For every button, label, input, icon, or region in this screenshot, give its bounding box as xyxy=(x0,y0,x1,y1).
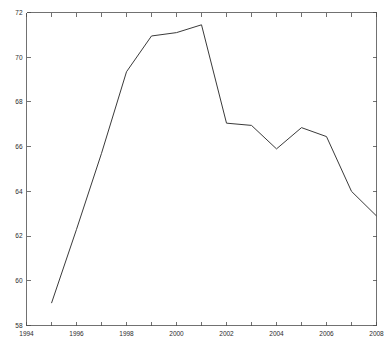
x-tick-label: 2004 xyxy=(269,330,284,337)
x-tick-label: 2008 xyxy=(369,330,384,337)
y-tick-label: 66 xyxy=(15,143,23,150)
y-tick-label: 72 xyxy=(15,9,23,16)
x-tick-label: 1994 xyxy=(19,330,34,337)
chart-figure: 19941996199820002002200420062008 5860626… xyxy=(0,0,390,349)
y-tick-label: 64 xyxy=(15,188,23,195)
y-tick-label: 58 xyxy=(15,322,23,329)
y-tick-label: 68 xyxy=(15,98,23,105)
x-tick-label: 2002 xyxy=(219,330,234,337)
y-tick-label: 60 xyxy=(15,277,23,284)
y-tick-label: 62 xyxy=(15,232,23,239)
x-tick-label: 2006 xyxy=(319,330,334,337)
y-tick-label: 70 xyxy=(15,54,23,61)
plot-background xyxy=(0,0,390,349)
x-tick-label: 1996 xyxy=(69,330,84,337)
x-tick-label: 2000 xyxy=(169,330,184,337)
x-tick-label: 1998 xyxy=(119,330,134,337)
line-chart-plot: 19941996199820002002200420062008 5860626… xyxy=(0,0,390,349)
